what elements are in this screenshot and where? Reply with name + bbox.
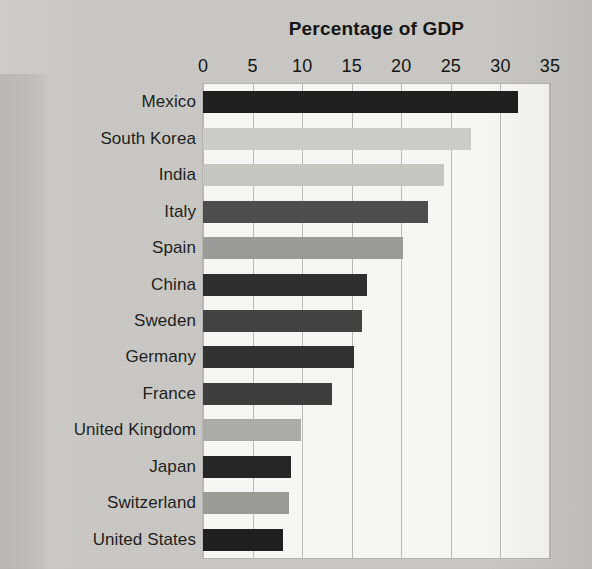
bar [203,201,428,223]
y-axis-category-label: Spain [0,238,196,258]
x-axis-tick-label: 5 [247,56,257,77]
bar-row [203,128,550,150]
bar [203,419,301,441]
bar-row [203,419,550,441]
x-axis-tick-label: 25 [441,56,461,77]
y-axis-category-label: Switzerland [0,493,196,513]
y-axis-category-label: South Korea [0,129,196,149]
plot-area [203,84,550,558]
x-axis-tick-label: 20 [391,56,411,77]
bar-row [203,383,550,405]
bar-row [203,529,550,551]
bar [203,237,403,259]
bar-row [203,91,550,113]
x-axis-tick-label: 0 [198,56,208,77]
bar [203,456,291,478]
bar [203,164,444,186]
bar-row [203,237,550,259]
bars-layer [203,84,550,558]
bar [203,492,289,514]
y-axis-category-label: Italy [0,202,196,222]
bar-row [203,492,550,514]
bar-row [203,310,550,332]
bar-row [203,456,550,478]
x-axis-tick-labels: 05101520253035 [0,56,592,80]
y-axis-category-label: Mexico [0,92,196,112]
bar [203,310,362,332]
bar [203,274,367,296]
x-axis-tick-label: 30 [490,56,510,77]
y-axis-category-label: Japan [0,457,196,477]
bar-row [203,164,550,186]
y-axis-category-label: United Kingdom [0,420,196,440]
y-axis-category-label: France [0,384,196,404]
y-axis-category-label: India [0,165,196,185]
bar [203,346,354,368]
x-axis-tick-label: 10 [292,56,312,77]
y-axis-category-labels: MexicoSouth KoreaIndiaItalySpainChinaSwe… [0,84,196,558]
y-axis-category-label: Sweden [0,311,196,331]
y-axis-category-label: China [0,275,196,295]
y-axis-category-label: Germany [0,347,196,367]
bar-row [203,201,550,223]
bar-row [203,274,550,296]
x-axis-tick-label: 35 [540,56,560,77]
y-axis-category-label: United States [0,530,196,550]
bar [203,128,471,150]
bar [203,529,283,551]
bar [203,383,332,405]
bar-chart: Percentage of GDP 05101520253035 MexicoS… [0,0,592,569]
bar-row [203,346,550,368]
bar [203,91,518,113]
chart-title: Percentage of GDP [203,18,550,40]
x-axis-tick-label: 15 [341,56,361,77]
